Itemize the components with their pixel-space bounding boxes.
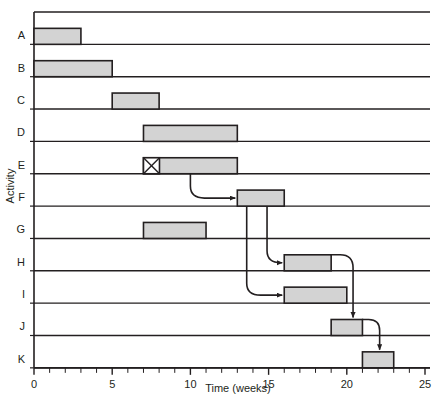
- activity-label-b: B: [18, 62, 25, 74]
- activity-label-d: D: [17, 126, 25, 138]
- y-axis-title: Activity: [4, 168, 16, 203]
- activity-label-g: G: [16, 223, 25, 235]
- activity-label-k: K: [18, 353, 26, 365]
- activity-label-e: E: [18, 159, 25, 171]
- x-axis-title: Time (weeks): [205, 382, 271, 394]
- activity-label-i: I: [22, 288, 25, 300]
- gantt-bar: [112, 93, 159, 109]
- gantt-bar: [237, 190, 284, 206]
- gantt-bar: [34, 61, 112, 77]
- x-axis-tick-label: 5: [109, 378, 115, 390]
- gantt-bar: [34, 28, 81, 44]
- gantt-chart-canvas: 0510152025 ABCDEFGHIJK Time (weeks) Acti…: [0, 0, 437, 408]
- x-axis-tick-label: 20: [341, 378, 353, 390]
- gantt-bar: [331, 320, 362, 336]
- gantt-bar: [284, 287, 347, 303]
- dependency-arrow-h-j: [331, 255, 353, 318]
- activity-label-h: H: [17, 256, 25, 268]
- dependency-arrow-j-k: [362, 320, 380, 350]
- activity-label-c: C: [17, 94, 25, 106]
- gantt-chart: 0510152025 ABCDEFGHIJK Time (weeks) Acti…: [0, 0, 437, 408]
- activity-label-j: J: [20, 320, 26, 332]
- dependency-arrow-e-f: [190, 174, 235, 198]
- gantt-bar: [143, 125, 237, 141]
- gantt-bar: [362, 352, 393, 368]
- activity-labels-group: ABCDEFGHIJK: [16, 29, 34, 368]
- x-axis-tick-label: 0: [31, 378, 37, 390]
- activity-label-a: A: [18, 29, 26, 41]
- x-axis-tick-label: 10: [184, 378, 196, 390]
- gantt-bar: [284, 255, 331, 271]
- gantt-bar: [143, 222, 206, 238]
- activity-label-f: F: [18, 191, 25, 203]
- x-axis-tick-label: 25: [419, 378, 431, 390]
- dependency-arrow-f-i: [247, 206, 283, 295]
- dependency-arrow-f-h: [267, 206, 282, 263]
